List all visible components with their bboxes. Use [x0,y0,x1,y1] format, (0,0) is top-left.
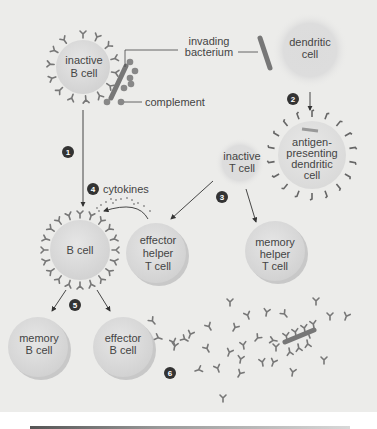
memory-helper-t-label-2: helper [260,248,291,260]
memory-helper-t-label-3: T cell [262,260,288,272]
step-badge-5: 5 [69,299,81,311]
svg-text:4: 4 [91,185,96,194]
step-badge-1: 1 [62,146,74,158]
svg-text:6: 6 [168,369,173,378]
cytokines-label: cytokines [103,183,149,195]
memory-b-cell-label-2: B cell [26,344,53,356]
memory-helper-t-label-1: memory [255,236,295,248]
memory-b-cell-label-1: memory [19,332,59,344]
dendritic-cell: dendritic cell [272,12,348,88]
complement-label: complement [145,96,205,108]
presented-antigen [302,129,318,131]
dendritic-cell-label-2: cell [302,48,319,60]
inactive-b-cell: inactive B cell [47,31,119,103]
effector-helper-t-label-3: T cell [145,260,171,272]
svg-text:3: 3 [220,193,225,202]
secreted-antibodies [148,298,350,402]
inactive-t-cell-label-2: T cell [229,162,255,174]
inactive-b-cell-label-2: B cell [71,67,98,79]
b-cell-label: B cell [67,244,94,256]
inactive-t-cell: inactive T cell [215,138,265,188]
svg-text:5: 5 [73,301,78,310]
svg-text:1: 1 [66,148,71,157]
step-badge-2: 2 [287,93,299,105]
effector-b-cell-label-2: B cell [110,344,137,356]
step-badge-3: 3 [216,191,228,203]
effector-helper-t-label-2: helper [143,247,174,259]
invading-bacterium [260,38,270,68]
antigen-presenting-dendritic-cell: antigen- presenting dendritic cell [267,110,356,200]
effector-b-cell: effector B cell [93,317,156,380]
effector-helper-t-cell: effector helper T cell [126,223,189,286]
effector-helper-t-label-1: effector [140,234,177,246]
b-cell: B cell [41,211,119,289]
effector-b-cell-label-1: effector [105,332,142,344]
step-badge-4: 4 [87,183,99,195]
dendritic-cell-label-1: dendritic [289,36,331,48]
inactive-b-cell-label-1: inactive [65,54,102,66]
invading-bacterium-label-2: bacterium [185,46,233,58]
immune-response-diagram: inactive B cell complement invading bact… [0,0,377,412]
cytokine-dots [96,197,151,212]
apc-label-4: cell [304,169,321,181]
memory-b-cell: memory B cell [8,317,71,380]
inactive-t-cell-label-1: inactive [223,150,260,162]
memory-helper-t-cell: memory helper T cell [245,221,308,284]
svg-text:2: 2 [291,95,296,104]
step-badge-6: 6 [164,367,176,379]
